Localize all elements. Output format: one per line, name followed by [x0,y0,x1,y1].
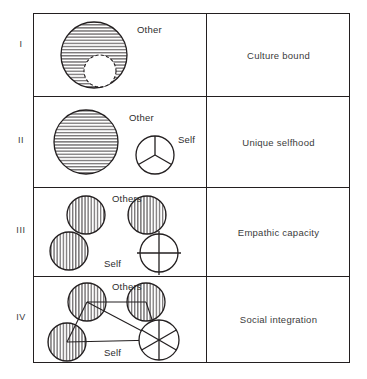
others-label: Others [112,193,142,204]
row-numeral-1: I [10,40,32,49]
diagram-cell-row-4: Others Self [34,277,206,362]
other-label: Other [137,24,162,35]
other-circle-1 [68,283,106,321]
row-numeral-3: III [10,226,32,235]
figure-root: I II III IV Other Culture bound [0,0,367,379]
self-label: Self [104,258,121,269]
other-circle-3 [50,232,88,270]
self-spoke-2 [139,155,156,165]
self-spoke-3 [155,155,172,165]
other-label: Other [129,112,154,123]
stage-label-row-3: Empathic capacity [206,188,351,276]
diagram-cell-row-2: Other Self [34,97,206,187]
row-numeral-4: IV [10,313,32,322]
row-numeral-2: II [10,136,32,145]
diagram-cell-row-3: Others Self [34,188,206,276]
diagram-cell-row-1: Other [34,14,206,96]
self-void-circle [84,55,116,87]
others-label: Others [112,281,142,292]
self-label: Self [104,347,121,358]
other-mass-circle [54,110,118,174]
other-circle-3 [48,323,86,361]
stage-label-row-2: Unique selfhood [206,97,351,187]
stage-label-row-4: Social integration [206,277,351,362]
other-circle-1 [67,196,105,234]
self-label: Self [178,134,195,145]
stage-table: Other Culture bound Other Self [33,13,350,363]
stage-label-row-1: Culture bound [206,14,351,96]
